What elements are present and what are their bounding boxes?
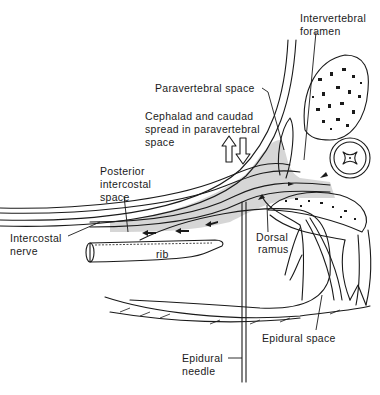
label-paravertebral-space: Paravertebral space (155, 82, 255, 94)
label-posterior-intercostal-1: Posterior (100, 165, 145, 177)
label-cephalad-1: Cephalad and caudad (145, 110, 253, 122)
label-cephalad-2: spread in paravertebral (145, 123, 260, 135)
label-dorsal-ramus-1: Dorsal (256, 231, 288, 243)
label-epidural-needle-2: needle (182, 365, 215, 377)
label-posterior-intercostal-2: intercostal (100, 178, 151, 190)
rib: rib (86, 240, 223, 262)
rib-label: rib (156, 248, 169, 260)
label-posterior-intercostal-3: space (100, 191, 130, 203)
cephalad-caudad-arrows (222, 136, 250, 164)
label-dorsal-ramus-2: ramus (258, 243, 289, 255)
label-cephalad-3: space (145, 136, 175, 148)
label-intervertebral-foramen-2: foramen (300, 25, 341, 37)
vertebral-body (304, 55, 368, 140)
spinous-process (342, 230, 371, 305)
anatomy-diagram: rib (0, 0, 380, 395)
epidural-needle (242, 202, 246, 382)
label-epidural-space: Epidural space (262, 332, 336, 344)
label-intervertebral-foramen-1: Intervertebral (300, 12, 366, 24)
spinal-cord (330, 138, 370, 178)
label-intercostal-nerve-2: nerve (10, 245, 38, 257)
label-intercostal-nerve-1: Intercostal (10, 232, 62, 244)
label-epidural-needle-1: Epidural (182, 352, 223, 364)
